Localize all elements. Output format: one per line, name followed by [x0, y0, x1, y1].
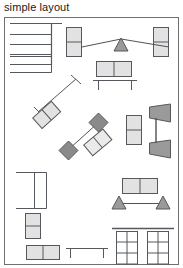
shape-cabinet-top-right [154, 28, 169, 57]
page-title: simple layout [4, 1, 70, 14]
shape-cabinet-bottom-left [27, 246, 60, 260]
shape-cabinet-top-mid [67, 28, 82, 57]
diagram-canvas [4, 17, 179, 265]
shape-table-cells-mid [97, 62, 132, 77]
layout-svg [4, 17, 179, 265]
shape-cabinet-right-mid [127, 116, 142, 145]
shape-table-cells-lower-right [123, 179, 158, 194]
layout-screenshot: simple layout [0, 0, 183, 268]
shape-cabinet-left-lower [26, 214, 41, 239]
